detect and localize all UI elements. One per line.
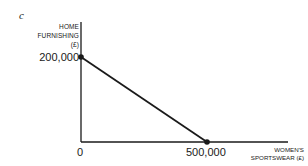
point-x-intercept [204,139,210,145]
point-y-intercept [78,54,84,60]
plot-area [0,0,308,166]
frontier-line [81,57,207,142]
